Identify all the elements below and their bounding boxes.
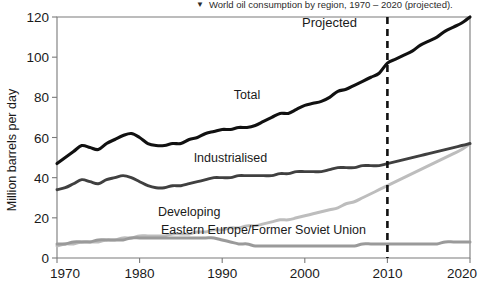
series-label-total: Total xyxy=(234,88,260,102)
y-tick-label: 0 xyxy=(41,251,49,266)
y-tick-label: 80 xyxy=(34,90,49,105)
series-label-industrialised: Industrialised xyxy=(194,151,268,165)
x-axis-tick-labels: 197019801990200020102020 xyxy=(50,266,477,281)
y-axis-title: Million barrels per day xyxy=(5,88,19,211)
x-tick-label: 2010 xyxy=(372,266,402,281)
y-axis-tick-labels: 020406080100120 xyxy=(26,10,49,266)
series-inline-labels: TotalIndustrialisedDevelopingEastern Eur… xyxy=(158,88,366,237)
x-tick-label: 1980 xyxy=(125,266,155,281)
y-tick-label: 20 xyxy=(34,211,49,226)
y-tick-label: 40 xyxy=(34,171,49,186)
series-line-eastern-europe-former-soviet-union xyxy=(57,238,470,246)
y-tick-label: 120 xyxy=(26,10,49,25)
y-tick-label: 100 xyxy=(26,50,49,65)
series-label-eastern-europe-former-soviet-union: Eastern Europe/Former Soviet Union xyxy=(161,223,366,237)
x-tick-label: 2020 xyxy=(447,266,477,281)
x-tick-label: 2000 xyxy=(290,266,320,281)
x-tick-label: 1970 xyxy=(50,266,80,281)
y-tick-label: 60 xyxy=(34,131,49,146)
y-axis-ticks xyxy=(52,17,57,258)
line-chart-plot: 020406080100120 197019801990200020102020… xyxy=(0,0,489,284)
x-tick-label: 1990 xyxy=(207,266,237,281)
series-line-total xyxy=(57,17,470,164)
series-label-developing: Developing xyxy=(158,205,221,219)
chart-container: ▼ World oil consumption by region, 1970 … xyxy=(0,0,489,284)
x-axis-ticks xyxy=(57,258,470,263)
projected-annotation-label: Projected xyxy=(302,15,357,30)
chart-series-group xyxy=(57,17,470,246)
